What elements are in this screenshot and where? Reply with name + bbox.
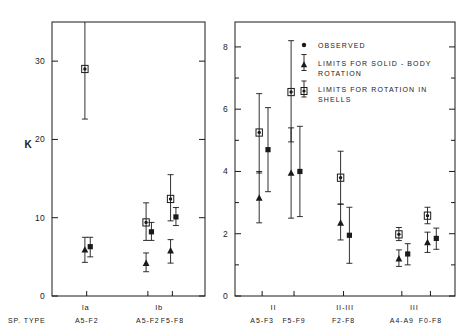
- sp-range-label: F2-F8: [332, 317, 355, 324]
- marker-shells-dot: [83, 67, 86, 70]
- legend-label-observed: OBSERVED: [318, 42, 366, 49]
- scatter-figure: 0102030IaIbA5-F2A5-F2F5-F802468IIII-IIII…: [0, 0, 465, 336]
- legend-label-shells: LIMITS FOR ROTATION IN: [318, 86, 428, 93]
- y-tick-label: 2: [223, 229, 228, 239]
- legend-label-rotation: ROTATION: [318, 70, 362, 77]
- marker-observed: [149, 229, 154, 234]
- marker-shells-dot: [397, 233, 400, 236]
- marker-solid-body: [167, 247, 174, 253]
- marker-observed: [405, 251, 410, 256]
- y-tick-label: 4: [223, 166, 228, 176]
- group-label-II: II: [271, 303, 277, 312]
- marker-observed: [173, 214, 178, 219]
- marker-solid-body: [288, 169, 295, 175]
- sp-range-label: A4-A9: [390, 317, 414, 324]
- marker-observed: [265, 147, 270, 152]
- sp-range-label: A5-F2: [136, 317, 160, 324]
- sp-range-label: F0-F8: [419, 317, 442, 324]
- marker-observed: [434, 236, 439, 241]
- marker-solid-body: [337, 219, 344, 225]
- legend-triangle-icon: [301, 61, 307, 67]
- marker-shells-dot: [258, 131, 261, 134]
- marker-shells-dot: [289, 90, 292, 93]
- sp-range-label: F5-F8: [161, 317, 184, 324]
- y-axis-title: K: [24, 139, 32, 150]
- group-label-II-III: II-III: [336, 303, 354, 312]
- marker-shells-dot: [169, 197, 172, 200]
- plot-frame-left: [52, 22, 205, 296]
- y-tick-label: 0: [40, 291, 45, 301]
- legend-observed-dot-icon: [302, 43, 306, 47]
- y-tick-label: 30: [35, 56, 45, 66]
- marker-shells-dot: [339, 176, 342, 179]
- marker-solid-body: [424, 239, 431, 245]
- marker-solid-body: [81, 246, 88, 252]
- y-tick-label: 10: [35, 213, 45, 223]
- legend-label-shells2: SHELLS: [318, 96, 351, 103]
- marker-solid-body: [256, 194, 263, 200]
- sp-type-axis-label: SP. TYPE: [8, 317, 46, 324]
- marker-observed: [297, 169, 302, 174]
- sp-range-label: A5-F3: [250, 317, 274, 324]
- marker-solid-body: [396, 255, 403, 261]
- sp-range-label: A5-F2: [75, 317, 99, 324]
- legend-circle-dot-center: [302, 89, 305, 92]
- marker-solid-body: [143, 260, 150, 266]
- marker-shells-dot: [426, 214, 429, 217]
- figure-container: 0102030IaIbA5-F2A5-F2F5-F802468IIII-IIII…: [0, 0, 465, 336]
- y-tick-label: 20: [35, 134, 45, 144]
- y-tick-label: 8: [223, 42, 228, 52]
- marker-observed: [347, 233, 352, 238]
- legend-label-solid-body: LIMITS FOR SOLID - BODY: [318, 60, 432, 67]
- sp-range-label: F5-F9: [282, 317, 305, 324]
- group-label-III: III: [410, 303, 419, 312]
- group-label-Ia: Ia: [82, 303, 90, 312]
- marker-shells-dot: [144, 221, 147, 224]
- y-tick-label: 6: [223, 104, 228, 114]
- group-label-Ib: Ib: [155, 303, 163, 312]
- y-tick-label: 0: [223, 291, 228, 301]
- marker-observed: [88, 244, 93, 249]
